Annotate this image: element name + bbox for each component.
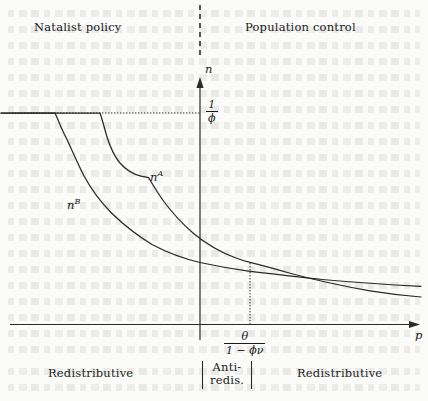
- x-axis-label: p: [415, 330, 422, 342]
- top-right-region-label: Population control: [245, 22, 356, 34]
- fraction-denominator: 1 − ϕν: [224, 345, 265, 357]
- curve-label-n-A: nA: [150, 170, 163, 183]
- x-tick-label-threshold: θ 1 − ϕν: [224, 331, 265, 357]
- curve-label-superscript: B: [74, 197, 80, 206]
- bottom-middle-region-label-line2: redis.: [210, 373, 244, 387]
- plot-canvas: [0, 0, 428, 401]
- y-axis-label: n: [205, 64, 212, 76]
- bottom-left-region-label: Redistributive: [48, 368, 133, 380]
- fraction-denominator: ϕ: [206, 113, 218, 125]
- y-tick-label-one-over-phi: 1 ϕ: [206, 99, 218, 125]
- fraction-theta-over-one-minus-phi-nu: θ 1 − ϕν: [224, 331, 265, 357]
- curve-label-n-B: nB: [67, 198, 80, 211]
- fraction-numerator: θ: [224, 331, 265, 343]
- curve-n-B: [1, 113, 421, 286]
- curve-label-superscript: A: [157, 169, 163, 178]
- figure-container: Natalist policy Population control n p 1…: [0, 0, 428, 401]
- fraction-numerator: 1: [206, 99, 218, 111]
- curve-n-A: [1, 113, 421, 297]
- bottom-middle-region-label: Anti- redis.: [210, 361, 244, 387]
- top-left-region-label: Natalist policy: [34, 22, 122, 34]
- y-axis-arrowhead: [196, 77, 203, 88]
- bottom-right-region-label: Redistributive: [297, 368, 382, 380]
- fraction-one-over-phi: 1 ϕ: [206, 99, 218, 125]
